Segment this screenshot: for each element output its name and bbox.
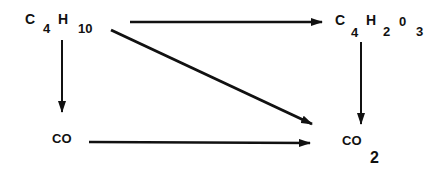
reaction-network-diagram: C 4 H 10 C 4 H 2 0 3 CO CO 2 <box>0 0 447 174</box>
arrow-butane-to-co2 <box>111 30 312 124</box>
arrow-co-to-co2 <box>89 142 310 143</box>
arrows-layer <box>0 0 447 174</box>
